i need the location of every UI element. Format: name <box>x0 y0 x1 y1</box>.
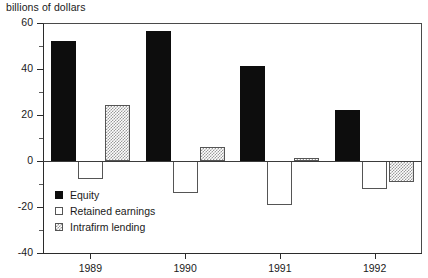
legend-label: Equity <box>70 189 99 201</box>
y-tick-mark <box>37 69 43 70</box>
legend-swatch-intrafirm <box>55 223 63 231</box>
y-tick-mark <box>37 23 43 24</box>
zero-baseline <box>43 161 422 162</box>
bar-1991-retained <box>267 161 292 205</box>
bar-chart: billions of dollars 6040200-20-40 198919… <box>0 0 428 278</box>
y-tick-minor <box>39 184 43 185</box>
y-tick-label: -40 <box>0 247 33 258</box>
x-axis-line <box>43 253 422 254</box>
x-tick-label: 1992 <box>345 262 405 274</box>
y-tick-minor <box>39 46 43 47</box>
legend-swatch-retained <box>55 207 63 215</box>
legend-item-retained: Retained earnings <box>55 203 155 219</box>
legend-item-equity: Equity <box>55 187 155 203</box>
bar-1989-intrafirm <box>105 105 130 161</box>
y-tick-label: -20 <box>0 201 33 212</box>
x-tick-label: 1991 <box>250 262 310 274</box>
y-tick-minor <box>39 138 43 139</box>
bar-1989-equity <box>51 41 76 161</box>
y-tick-label: 40 <box>0 63 33 74</box>
y-tick-mark <box>37 207 43 208</box>
chart-axis-title: billions of dollars <box>6 1 86 13</box>
y-tick-minor <box>39 92 43 93</box>
chart-legend: EquityRetained earningsIntrafirm lending <box>55 187 155 235</box>
bar-1990-intrafirm <box>200 147 225 161</box>
bar-1991-equity <box>240 66 265 161</box>
y-tick-label: 0 <box>0 155 33 166</box>
bar-1990-equity <box>146 31 171 161</box>
bar-1992-intrafirm <box>389 161 414 182</box>
x-tick-label: 1989 <box>60 262 120 274</box>
y-tick-mark <box>37 115 43 116</box>
y-tick-label: 20 <box>0 109 33 120</box>
legend-label: Retained earnings <box>70 205 155 217</box>
y-tick-minor <box>39 230 43 231</box>
legend-item-intrafirm: Intrafirm lending <box>55 219 155 235</box>
bar-1992-equity <box>335 110 360 161</box>
bar-1990-retained <box>173 161 198 193</box>
legend-label: Intrafirm lending <box>70 221 145 233</box>
bar-1989-retained <box>78 161 103 179</box>
legend-swatch-equity <box>55 191 63 199</box>
y-tick-label: 60 <box>0 17 33 28</box>
bar-1992-retained <box>362 161 387 189</box>
x-tick-label: 1990 <box>155 262 215 274</box>
